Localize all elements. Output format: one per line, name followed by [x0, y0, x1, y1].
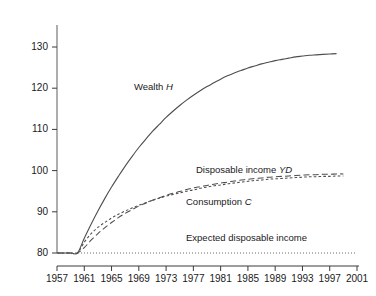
y-axis-tick-label: 100	[10, 166, 48, 176]
chart-figure: 8090100110120130 19571961196519691973197…	[0, 0, 376, 296]
y-axis-tick-label: 80	[10, 248, 48, 258]
series-label-expected-disposable-income-text: Expected disposable income	[186, 232, 307, 243]
series-label-consumption-text: Consumption	[186, 196, 245, 207]
y-axis-tick-label: 130	[10, 42, 48, 52]
series-label-disposable-income-symbol: YD	[279, 164, 292, 175]
series-label-disposable-income-text: Disposable income	[196, 164, 279, 175]
y-axis-ticks	[52, 47, 57, 253]
series-line-wealth-h	[57, 54, 337, 255]
y-axis-tick-label: 90	[10, 207, 48, 217]
x-axis-ticks	[57, 266, 357, 271]
series-label-disposable-income: Disposable income YD	[196, 165, 292, 175]
y-axis-tick-label: 120	[10, 83, 48, 93]
series-label-wealth: Wealth H	[134, 82, 173, 92]
y-axis-tick-label: 110	[10, 124, 48, 134]
series-label-expected-disposable-income: Expected disposable income	[186, 233, 307, 243]
series-paths	[57, 54, 357, 255]
series-label-wealth-symbol: H	[166, 81, 173, 92]
x-axis-tick-label: 2001	[337, 274, 376, 284]
series-label-consumption: Consumption C	[186, 197, 252, 207]
chart-plot-area	[0, 0, 376, 296]
series-label-wealth-text: Wealth	[134, 81, 166, 92]
series-label-consumption-symbol: C	[245, 196, 252, 207]
